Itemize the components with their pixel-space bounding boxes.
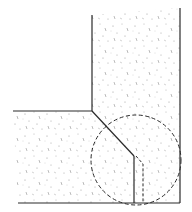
junction-diagram — [0, 0, 192, 212]
concrete-fill — [13, 8, 180, 203]
